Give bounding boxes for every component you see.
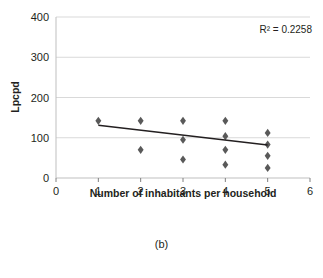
y-axis-title: Lpcpd <box>9 81 21 113</box>
y-tick-label: 300 <box>31 51 49 63</box>
y-tick-label: 400 <box>31 11 49 23</box>
y-axis-tick-labels: 0100200300400 <box>31 11 49 184</box>
figure-panel-b: 0100200300400 0123456 R² = 0.2258 Lpcpd … <box>0 0 323 278</box>
data-point-marker <box>180 117 186 125</box>
figure-caption: (b) <box>0 238 323 250</box>
scatter-chart: 0100200300400 0123456 R² = 0.2258 Lpcpd … <box>0 0 323 200</box>
data-point-marker <box>95 117 101 125</box>
x-axis-tick-marks <box>56 178 310 182</box>
data-point-marker <box>222 161 228 169</box>
x-axis-title: Number of inhabitants per household <box>90 187 277 199</box>
data-point-marker <box>265 129 271 137</box>
data-points <box>95 117 270 172</box>
data-point-marker <box>265 164 271 172</box>
x-tick-label: 0 <box>53 185 59 197</box>
data-point-marker <box>180 136 186 144</box>
r-squared-annotation: R² = 0.2258 <box>259 24 312 35</box>
chart-svg: 0100200300400 0123456 R² = 0.2258 Lpcpd … <box>0 0 323 200</box>
gridlines <box>56 17 310 178</box>
data-point-marker <box>222 146 228 154</box>
y-tick-label: 0 <box>43 172 49 184</box>
y-tick-label: 100 <box>31 132 49 144</box>
data-point-marker <box>222 117 228 125</box>
data-point-marker <box>180 155 186 163</box>
x-tick-label: 6 <box>307 185 313 197</box>
data-point-marker <box>138 146 144 154</box>
data-point-marker <box>265 152 271 160</box>
y-tick-label: 200 <box>31 92 49 104</box>
data-point-marker <box>222 132 228 140</box>
data-point-marker <box>138 117 144 125</box>
